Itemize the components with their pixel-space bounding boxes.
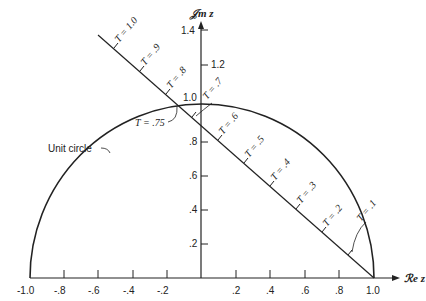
svg-text:-.4: -.4 bbox=[123, 285, 135, 296]
real-axis-arrow-icon bbox=[392, 275, 400, 281]
t075-arrow bbox=[168, 106, 177, 122]
svg-text:1.0: 1.0 bbox=[366, 285, 380, 296]
svg-text:-1.0: -1.0 bbox=[17, 285, 35, 296]
svg-text:-.2: -.2 bbox=[157, 285, 169, 296]
svg-text:T = .8: T = .8 bbox=[164, 64, 188, 90]
svg-text:T = .7: T = .7 bbox=[200, 75, 225, 102]
svg-text:T = .9: T = .9 bbox=[138, 41, 162, 67]
t1-arrow bbox=[352, 222, 366, 252]
t075-label: T = .75 bbox=[135, 117, 165, 128]
t07-arrow bbox=[196, 103, 212, 116]
real-axis-label: ℛe z bbox=[404, 272, 426, 284]
svg-text:.4: .4 bbox=[189, 204, 198, 215]
unit-circle bbox=[30, 104, 374, 278]
imag-axis-label: 𝒥m z bbox=[189, 7, 214, 20]
svg-text:.8: .8 bbox=[189, 136, 198, 147]
y-tick-labels: .2 .4 .6 .8 1.0 1.2 1.4 bbox=[181, 25, 225, 249]
svg-text:T = .3: T = .3 bbox=[294, 179, 318, 205]
svg-text:T = .5: T = .5 bbox=[242, 133, 266, 159]
svg-text:T = .2: T = .2 bbox=[320, 202, 344, 228]
svg-text:1.0: 1.0 bbox=[183, 92, 197, 103]
t-line bbox=[98, 35, 374, 278]
svg-text:T = 1.0: T = 1.0 bbox=[112, 15, 139, 45]
svg-text:T = .1: T = .1 bbox=[354, 197, 378, 223]
svg-text:T = .4: T = .4 bbox=[268, 156, 292, 182]
svg-text:.8: .8 bbox=[335, 285, 344, 296]
y-ticks bbox=[201, 30, 208, 244]
svg-text:T = .6: T = .6 bbox=[216, 110, 240, 136]
svg-text:-.8: -.8 bbox=[54, 285, 66, 296]
svg-text:.6: .6 bbox=[301, 285, 310, 296]
imag-axis-arrow-icon bbox=[198, 21, 204, 29]
svg-text:.2: .2 bbox=[232, 285, 241, 296]
unit-circle-arrow bbox=[101, 148, 110, 153]
svg-text:1.2: 1.2 bbox=[211, 59, 225, 70]
svg-text:-.6: -.6 bbox=[88, 285, 100, 296]
svg-text:.6: .6 bbox=[189, 170, 198, 181]
svg-text:.2: .2 bbox=[189, 238, 198, 249]
complex-plane-diagram: ℛe z 𝒥m z -1.0 -.8 -.6 -.4 -.2 .2 .4 .6 … bbox=[0, 0, 426, 301]
unit-circle-label: Unit circle bbox=[48, 143, 92, 154]
x-tick-labels: -1.0 -.8 -.6 -.4 -.2 .2 .4 .6 .8 1.0 bbox=[17, 285, 380, 296]
svg-text:1.4: 1.4 bbox=[181, 25, 195, 36]
svg-text:.4: .4 bbox=[266, 285, 275, 296]
